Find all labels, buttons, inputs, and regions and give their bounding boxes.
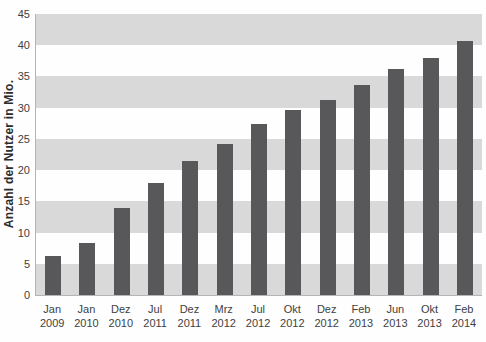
x-tick-label: Jan2010	[69, 302, 103, 330]
y-tick-label: 45	[0, 7, 30, 21]
bar-slot	[105, 14, 139, 295]
bar	[457, 41, 473, 295]
x-tick-month: Jun	[378, 302, 412, 316]
bar	[182, 161, 198, 295]
x-tick-label: Dez2012	[310, 302, 344, 330]
x-tick-year: 2009	[35, 316, 69, 330]
x-tick-month: Jan	[35, 302, 69, 316]
x-tick-label: Dez2011	[172, 302, 206, 330]
x-tick-month: Jul	[138, 302, 172, 316]
x-tick-label: Feb2014	[447, 302, 481, 330]
y-tick-label: 40	[0, 38, 30, 52]
y-tick-label: 0	[0, 288, 30, 302]
bar-chart: Anzahl der Nutzer in Mio. 05101520253035…	[0, 0, 486, 342]
x-tick-year: 2011	[172, 316, 206, 330]
bar-slot	[70, 14, 104, 295]
bar	[320, 100, 336, 295]
bar-slot	[413, 14, 447, 295]
x-tick-month: Okt	[412, 302, 446, 316]
bar	[148, 183, 164, 295]
x-tick-month: Feb	[447, 302, 481, 316]
plot-area	[35, 14, 482, 296]
bar-slot	[173, 14, 207, 295]
bar-slot	[139, 14, 173, 295]
y-tick-label: 15	[0, 194, 30, 208]
y-tick-label: 30	[0, 101, 30, 115]
bar-slot	[345, 14, 379, 295]
x-tick-year: 2013	[378, 316, 412, 330]
bar	[217, 144, 233, 295]
x-tick-label: Jul2012	[241, 302, 275, 330]
x-tick-month: Mrz	[207, 302, 241, 316]
bar-slot	[242, 14, 276, 295]
x-tick-year: 2012	[241, 316, 275, 330]
x-tick-month: Okt	[275, 302, 309, 316]
bar	[423, 58, 439, 295]
bar	[354, 85, 370, 295]
y-tick-label: 35	[0, 69, 30, 83]
bar	[388, 69, 404, 295]
x-tick-month: Dez	[172, 302, 206, 316]
x-tick-month: Jul	[241, 302, 275, 316]
bar-row	[36, 14, 482, 295]
x-tick-year: 2011	[138, 316, 172, 330]
x-tick-month: Dez	[310, 302, 344, 316]
bar-slot	[311, 14, 345, 295]
y-tick-label: 25	[0, 132, 30, 146]
x-tick-month: Feb	[344, 302, 378, 316]
bar	[251, 124, 267, 295]
x-tick-month: Dez	[104, 302, 138, 316]
x-tick-label: Jul2011	[138, 302, 172, 330]
x-tick-year: 2010	[104, 316, 138, 330]
x-axis-tick-labels: Jan2009Jan2010Dez2010Jul2011Dez2011Mrz20…	[35, 302, 481, 330]
y-tick-label: 10	[0, 226, 30, 240]
bar	[45, 256, 61, 295]
x-tick-year: 2012	[207, 316, 241, 330]
bar	[79, 243, 95, 295]
x-tick-label: Mrz2012	[207, 302, 241, 330]
x-tick-year: 2013	[412, 316, 446, 330]
bar-slot	[208, 14, 242, 295]
y-tick-label: 5	[0, 257, 30, 271]
x-tick-year: 2013	[344, 316, 378, 330]
bar-slot	[36, 14, 70, 295]
x-tick-year: 2010	[69, 316, 103, 330]
x-tick-label: Okt2012	[275, 302, 309, 330]
x-tick-label: Okt2013	[412, 302, 446, 330]
bar	[285, 110, 301, 295]
x-tick-month: Jan	[69, 302, 103, 316]
bar-slot	[448, 14, 482, 295]
y-tick-label: 20	[0, 163, 30, 177]
x-tick-year: 2012	[275, 316, 309, 330]
bar	[114, 208, 130, 295]
x-tick-label: Feb2013	[344, 302, 378, 330]
bar-slot	[276, 14, 310, 295]
x-tick-label: Jan2009	[35, 302, 69, 330]
x-tick-year: 2012	[310, 316, 344, 330]
x-tick-label: Jun2013	[378, 302, 412, 330]
x-tick-label: Dez2010	[104, 302, 138, 330]
bar-slot	[379, 14, 413, 295]
x-tick-year: 2014	[447, 316, 481, 330]
